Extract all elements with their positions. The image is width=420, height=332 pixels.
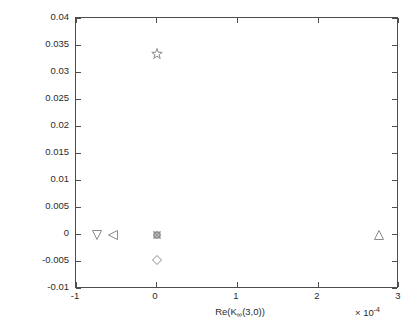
plot-area [75, 17, 398, 288]
y-tick-label: -0.005 [42, 255, 69, 265]
y-tick-label: 0.015 [45, 147, 69, 157]
x-tick-mark-top [156, 18, 157, 23]
x-tick-mark-top [76, 18, 77, 23]
x-tick-mark [237, 282, 238, 287]
y-tick-mark [76, 126, 81, 127]
y-tick-mark [76, 45, 81, 46]
data-point-left-triangle[interactable] [109, 230, 118, 239]
x-tick-mark [398, 282, 399, 287]
y-tick-mark-right [392, 72, 397, 73]
y-tick-mark-right [392, 234, 397, 235]
data-point-diamond[interactable] [152, 256, 161, 265]
y-tick-mark-right [392, 153, 397, 154]
y-tick-mark [76, 153, 81, 154]
x-tick-mark [76, 282, 77, 287]
x-tick-mark [156, 282, 157, 287]
y-tick-mark [76, 288, 81, 289]
y-tick-label: 0 [64, 228, 69, 238]
y-tick-mark-right [392, 180, 397, 181]
y-tick-label: 0.005 [45, 201, 69, 211]
x-tick-mark-top [318, 18, 319, 23]
x-axis-exponent-power: -4 [374, 306, 380, 313]
y-axis-label-wrapper: Re(K∞(4,0)) [0, 0, 1, 1]
x-tick-label: 2 [297, 291, 337, 301]
x-axis-exponent: × 10-4 [355, 306, 380, 318]
x-axis-label-text: Re(K∞(3,0)) [215, 306, 265, 317]
x-tick-mark-top [237, 18, 238, 23]
data-point-down-triangle[interactable] [92, 230, 101, 239]
y-tick-mark [76, 72, 81, 73]
y-tick-mark [76, 207, 81, 208]
y-tick-mark [76, 261, 81, 262]
y-tick-label: 0.02 [51, 120, 70, 130]
y-tick-mark-right [392, 45, 397, 46]
x-axis-label: Re(K∞(3,0)) [160, 306, 320, 319]
x-tick-mark-top [398, 18, 399, 23]
y-tick-mark-right [392, 99, 397, 100]
y-tick-mark-right [392, 261, 397, 262]
y-tick-label: 0.04 [51, 12, 70, 22]
y-tick-mark [76, 234, 81, 235]
x-axis-exponent-base: × 10 [355, 307, 374, 318]
y-tick-label: 0.01 [51, 174, 70, 184]
y-tick-mark-right [392, 126, 397, 127]
x-tick-label: -1 [55, 291, 95, 301]
y-tick-label: 0.025 [45, 93, 69, 103]
x-tick-mark [318, 282, 319, 287]
y-tick-mark-right [392, 18, 397, 19]
y-tick-mark-right [392, 207, 397, 208]
data-point-plus-origin[interactable] [153, 231, 160, 238]
x-tick-label: 1 [216, 291, 256, 301]
figure-canvas: 0.04 0.035 0.03 0.025 0.02 0.015 0.01 0.… [0, 0, 420, 332]
y-tick-label: 0.03 [51, 66, 70, 76]
x-tick-label: 3 [378, 291, 418, 301]
y-tick-mark [76, 180, 81, 181]
y-tick-mark-right [392, 288, 397, 289]
y-tick-label: 0.035 [45, 39, 69, 49]
x-tick-label: 0 [135, 291, 175, 301]
y-tick-mark [76, 99, 81, 100]
data-point-up-triangle[interactable] [374, 230, 383, 239]
data-point-star[interactable] [151, 49, 162, 60]
